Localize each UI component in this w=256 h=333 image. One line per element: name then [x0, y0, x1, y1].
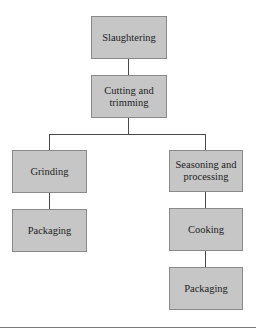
bottom-divider	[0, 327, 256, 328]
node-slaughtering: Slaughtering	[91, 16, 167, 59]
node-label: Cooking	[188, 224, 224, 236]
node-label: Slaughtering	[102, 32, 156, 44]
node-label: Packaging	[28, 225, 72, 237]
connector-branch-seasoning	[205, 134, 206, 150]
node-cooking: Cooking	[169, 208, 243, 251]
node-label: Grinding	[31, 166, 69, 178]
node-packaging-left: Packaging	[12, 209, 87, 252]
node-grinding: Grinding	[12, 150, 87, 193]
connector-branch-grinding	[49, 134, 50, 150]
node-seasoning-and-processing: Seasoning and processing	[169, 150, 243, 192]
node-label: Packaging	[184, 283, 228, 295]
connector-branch-horizontal	[49, 134, 206, 135]
connector-slaughtering-cutting	[128, 59, 129, 75]
node-label: Seasoning and processing	[172, 159, 240, 183]
connector-cooking-packaging	[205, 251, 206, 267]
node-packaging-right: Packaging	[169, 267, 243, 310]
node-label: Cutting and trimming	[99, 85, 159, 109]
node-cutting-and-trimming: Cutting and trimming	[91, 75, 167, 118]
connector-grinding-packaging	[49, 193, 50, 209]
connector-seasoning-cooking	[205, 192, 206, 208]
connector-cutting-branch	[128, 118, 129, 134]
